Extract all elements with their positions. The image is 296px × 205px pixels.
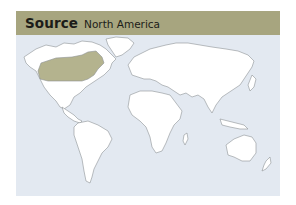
japan bbox=[248, 75, 256, 91]
panel-header: Source North America bbox=[16, 11, 280, 35]
world-map bbox=[16, 35, 280, 196]
new-zealand bbox=[262, 157, 271, 171]
header-subtitle: North America bbox=[84, 18, 160, 30]
source-panel: Source North America bbox=[16, 11, 280, 196]
north-america bbox=[24, 37, 134, 123]
indonesia bbox=[220, 119, 248, 129]
madagascar bbox=[183, 133, 188, 145]
header-title: Source bbox=[25, 15, 78, 31]
africa bbox=[128, 91, 182, 153]
australia bbox=[226, 135, 256, 161]
south-america bbox=[74, 121, 112, 183]
